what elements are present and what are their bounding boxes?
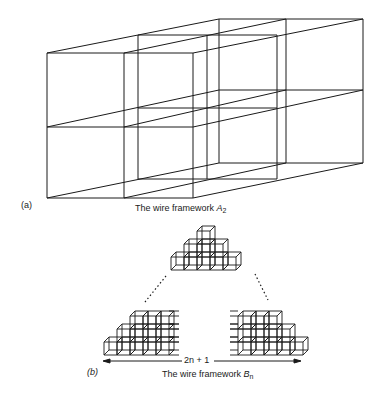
arrowhead-right-icon: [294, 359, 301, 363]
panel-label-b: (b): [87, 367, 98, 377]
panel-label-b-text: (b): [87, 367, 98, 377]
panel-label-a: (a): [21, 200, 32, 210]
caption-a-text: The wire framework: [135, 203, 217, 213]
wire-framework-a2: [47, 19, 363, 198]
caption-a: The wire framework A2: [135, 203, 226, 213]
wire-framework-bn-left-corner: [104, 311, 179, 355]
wire-framework-bn-apex: [171, 226, 241, 270]
wire-framework-bn-right-corner: [230, 311, 308, 355]
caption-a-subscript: 2: [223, 207, 227, 214]
left-dotted-connector: [145, 276, 166, 302]
arrowhead-left-icon: [103, 359, 110, 363]
wire-framework-figure: [0, 0, 387, 398]
caption-a-symbol: A: [217, 203, 223, 213]
right-dotted-connector: [255, 274, 268, 300]
dotted-connectors: [145, 274, 268, 302]
caption-b-subscript: n: [250, 373, 254, 380]
caption-b: The wire framework Bn: [162, 369, 253, 379]
width-label: 2n + 1: [184, 355, 209, 365]
caption-b-text: The wire framework: [162, 369, 244, 379]
caption-b-symbol: B: [244, 369, 250, 379]
